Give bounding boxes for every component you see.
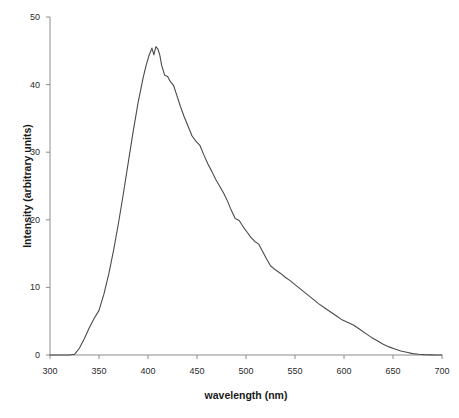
- data-series-group: [50, 47, 442, 355]
- x-axis-tick-label: 300: [35, 366, 65, 376]
- x-axis-tick-label: 700: [427, 366, 457, 376]
- y-axis-ticks: [46, 17, 50, 355]
- plot-area: [0, 0, 459, 418]
- x-axis-tick-label: 400: [133, 366, 163, 376]
- y-axis-tick-label: 40: [14, 80, 40, 90]
- chart-canvas: Intensity (arbitrary units) 01020304050 …: [0, 0, 459, 418]
- y-axis-tick-label: 30: [14, 147, 40, 157]
- x-axis-tick-label: 350: [84, 366, 114, 376]
- x-axis-tick-label: 600: [329, 366, 359, 376]
- x-axis-tick-label: 450: [182, 366, 212, 376]
- y-axis-tick-label: 10: [14, 282, 40, 292]
- x-axis-title: wavelength (nm): [50, 388, 442, 402]
- x-axis-tick-label: 550: [280, 366, 310, 376]
- y-axis-tick-label: 0: [14, 350, 40, 360]
- x-axis-tick-label: 650: [378, 366, 408, 376]
- axis-lines: [50, 17, 442, 355]
- x-axis-tick-label: 500: [231, 366, 261, 376]
- x-axis-ticks: [50, 355, 442, 359]
- y-axis-tick-label: 50: [14, 12, 40, 22]
- y-axis-tick-label: 20: [14, 215, 40, 225]
- data-series-line: [50, 47, 442, 355]
